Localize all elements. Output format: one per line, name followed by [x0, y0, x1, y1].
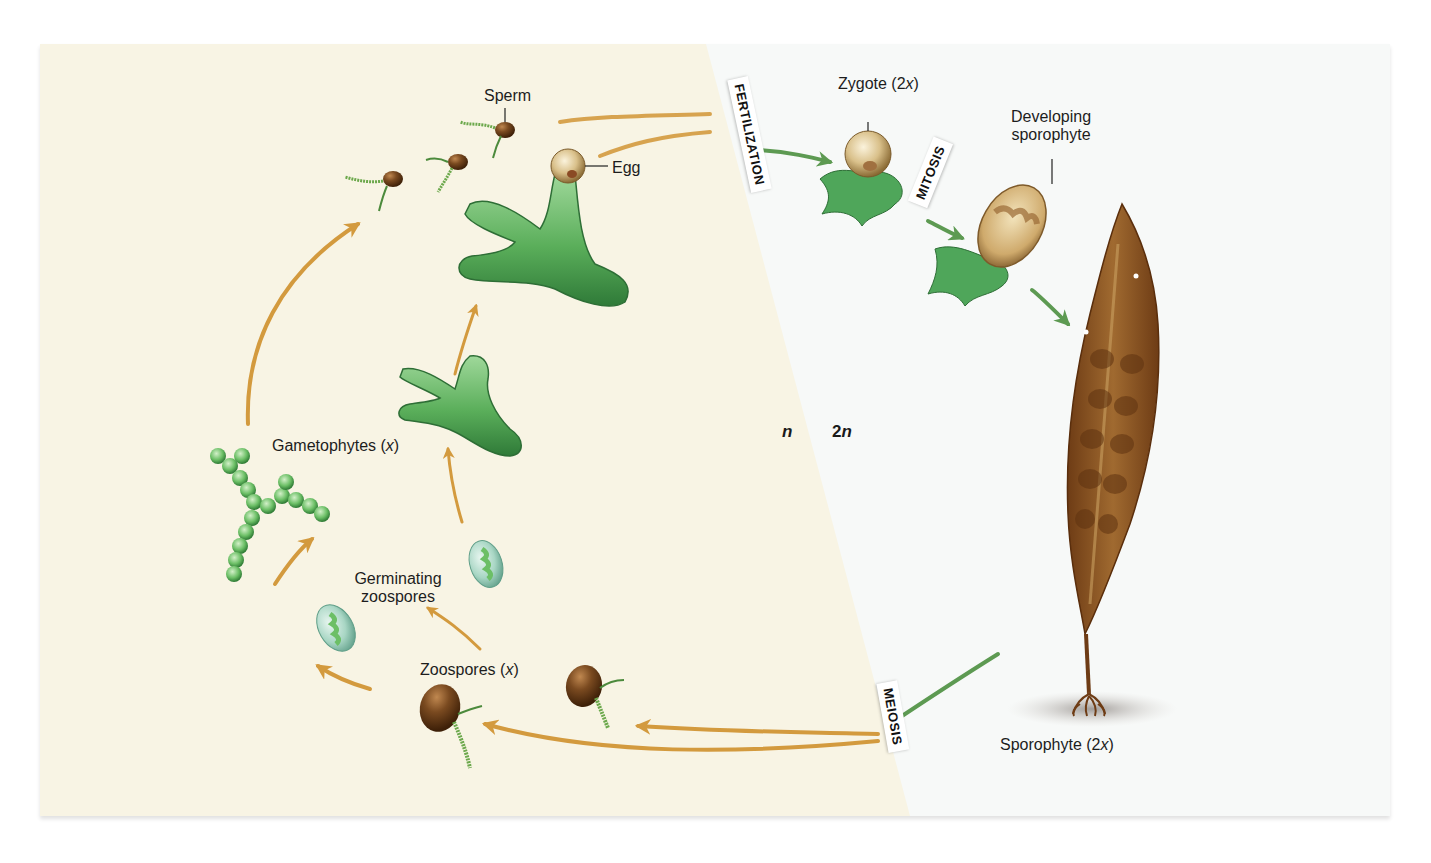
label-sporophyte: Sporophyte (2x) — [1000, 736, 1114, 754]
zygote — [820, 122, 902, 226]
label-developing-sporophyte: Developing sporophyte — [1010, 108, 1092, 144]
sporophyte-blade — [1007, 204, 1177, 727]
label-gametophytes: Gametophytes (x) — [272, 437, 399, 455]
label-germinating-zoospores: Germinating zoospores — [352, 570, 444, 606]
life-cycle-illustration — [40, 44, 1390, 816]
label-egg: Egg — [612, 159, 640, 177]
cropped-caption-strip — [40, 848, 1390, 863]
label-sperm: Sperm — [484, 87, 531, 105]
label-zygote: Zygote (2x) — [838, 75, 919, 93]
label-haploid-n: n — [782, 422, 792, 442]
label-zoospores: Zoospores (x) — [420, 661, 519, 679]
life-cycle-panel: Sperm Egg Zygote (2x) Developing sporoph… — [40, 44, 1390, 816]
label-diploid-2n: 2n — [832, 422, 852, 442]
